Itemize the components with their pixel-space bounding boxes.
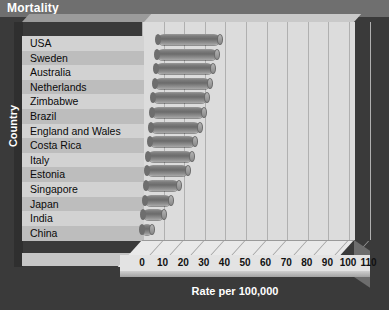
- x-axis-tick-label: 60: [255, 257, 277, 268]
- x-axis-tick-strip: 0102030405060708090100110: [120, 255, 370, 271]
- category-row: Italy: [22, 153, 144, 168]
- x-axis-tick-label: 100: [337, 257, 359, 268]
- category-row: Zimbabwe: [22, 94, 144, 109]
- category-label: Australia: [30, 65, 71, 80]
- bar-left-cap: [140, 209, 146, 220]
- bar-left-cap: [145, 151, 151, 162]
- bar-left-cap: [139, 224, 145, 235]
- category-row: Australia: [22, 65, 144, 80]
- category-label: Japan: [30, 197, 59, 212]
- bar-end-cap: [197, 122, 203, 133]
- category-label: Brazil: [30, 109, 56, 124]
- bar: [156, 63, 214, 74]
- category-label: China: [30, 226, 57, 241]
- category-row: Costa Rica: [22, 138, 144, 153]
- x-axis-tick-label: 50: [234, 257, 256, 268]
- bar: [148, 151, 191, 162]
- bar: [157, 49, 217, 60]
- category-row: Netherlands: [22, 80, 144, 95]
- bar: [158, 34, 220, 45]
- category-label: Estonia: [30, 167, 65, 182]
- bar: [143, 209, 164, 220]
- category-row: China: [22, 226, 144, 241]
- x-axis-label: Rate per 100,000: [120, 285, 350, 297]
- x-axis-tick-label: 70: [275, 257, 297, 268]
- category-label: Sweden: [30, 51, 68, 66]
- bar-left-cap: [148, 122, 154, 133]
- category-label-panel: USASwedenAustraliaNetherlandsZimbabweBra…: [22, 22, 144, 262]
- chart-root: Mortality USASwedenAustraliaNetherlandsZ…: [0, 0, 389, 310]
- bar-end-cap: [192, 136, 198, 147]
- category-label: Netherlands: [30, 80, 87, 95]
- category-row: England and Wales: [22, 124, 144, 139]
- category-row: Estonia: [22, 167, 144, 182]
- gridline: [267, 22, 268, 240]
- backwall-top-bevel: [142, 14, 361, 22]
- bar-left-cap: [143, 180, 149, 191]
- bar-end-cap: [176, 180, 182, 191]
- bar: [142, 224, 152, 235]
- gridline: [246, 22, 247, 240]
- bar-end-cap: [161, 209, 167, 220]
- bar: [155, 78, 211, 89]
- category-label: USA: [30, 36, 52, 51]
- label-panel-top-bevel: [22, 14, 151, 22]
- category-row: India: [22, 211, 144, 226]
- category-row: Brazil: [22, 109, 144, 124]
- y-axis-label: Country: [7, 91, 19, 161]
- gridline: [349, 22, 350, 240]
- tick-strip-bevel: [120, 271, 370, 277]
- x-axis-tick-label: 40: [213, 257, 235, 268]
- x-axis-tick-label: 0: [131, 257, 153, 268]
- bar-end-cap: [201, 107, 207, 118]
- bar: [145, 195, 172, 206]
- bar-left-cap: [149, 107, 155, 118]
- bar-left-cap: [147, 136, 153, 147]
- x-axis-tick-label: 90: [316, 257, 338, 268]
- bar-left-cap: [154, 49, 160, 60]
- x-axis-tick-label: 110: [358, 257, 380, 268]
- category-label: Costa Rica: [30, 138, 81, 153]
- gridline: [308, 22, 309, 240]
- bar-left-cap: [144, 165, 150, 176]
- bar-end-cap: [214, 49, 220, 60]
- bar-left-cap: [150, 92, 156, 103]
- category-row: USA: [22, 36, 144, 51]
- gridline: [287, 22, 288, 240]
- x-axis-tick-label: 30: [193, 257, 215, 268]
- bar-left-cap: [153, 63, 159, 74]
- bar-end-cap: [189, 151, 195, 162]
- gridline: [225, 22, 226, 240]
- x-axis-tick-label: 80: [296, 257, 318, 268]
- bar-left-cap: [152, 78, 158, 89]
- category-row: Singapore: [22, 182, 144, 197]
- bar: [146, 180, 179, 191]
- bar-left-cap: [142, 195, 148, 206]
- bar: [151, 122, 200, 133]
- bar-end-cap: [204, 92, 210, 103]
- category-label: Singapore: [30, 182, 78, 197]
- bar: [147, 165, 188, 176]
- category-row: Japan: [22, 197, 144, 212]
- gridline: [370, 22, 371, 240]
- bar: [152, 107, 204, 118]
- x-axis-tick-label: 20: [172, 257, 194, 268]
- category-label: Italy: [30, 153, 49, 168]
- category-label: England and Wales: [30, 124, 121, 139]
- bar: [153, 92, 207, 103]
- bar: [150, 136, 195, 147]
- bar-left-cap: [155, 34, 161, 45]
- category-row: Sweden: [22, 51, 144, 66]
- chart-scene: USASwedenAustraliaNetherlandsZimbabweBra…: [0, 0, 389, 310]
- gridline: [328, 22, 329, 240]
- bar-end-cap: [207, 78, 213, 89]
- category-label: India: [30, 211, 53, 226]
- x-axis-tick-label: 10: [152, 257, 174, 268]
- category-label: Zimbabwe: [30, 94, 78, 109]
- bar-end-cap: [217, 34, 223, 45]
